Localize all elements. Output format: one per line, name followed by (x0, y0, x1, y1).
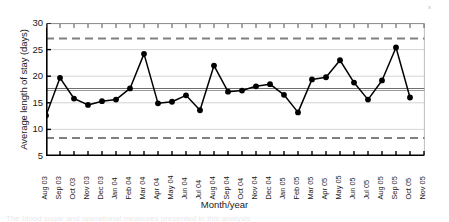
x-tick-label: Mar 05 (308, 160, 316, 200)
y-tick-10: 10 (23, 124, 43, 134)
y-tick-20: 20 (23, 71, 43, 81)
x-tick-label: Nov 05 (420, 160, 428, 200)
x-tick-label: Mar 04 (140, 160, 148, 200)
x-tick-label: Dec 03 (98, 160, 106, 200)
x-tick-label: Jul 05 (364, 160, 372, 200)
x-tick-label: Sep 05 (392, 160, 400, 200)
data-point-markers (46, 44, 413, 118)
x-tick-label: Jun 04 (182, 160, 190, 200)
x-tick-label: Oct 03 (70, 160, 78, 200)
axis-lines (46, 23, 425, 156)
x-tick-label: May 05 (336, 160, 344, 200)
x-tick-label: Feb 04 (126, 160, 134, 200)
chart-svg (46, 23, 425, 156)
x-tick-label: Oct 05 (406, 160, 414, 200)
x-tick-label: Oct 04 (238, 160, 246, 200)
x-tick-label: Apr 04 (154, 160, 162, 200)
x-axis-tick-labels: Aug 03Sep 03Oct 03Nov 03Dec 03Jan 04Feb … (46, 158, 425, 200)
y-tick-30: 30 (23, 18, 43, 28)
x-tick-label: Aug 03 (42, 160, 50, 200)
x-tick-label: Jan 05 (280, 160, 288, 200)
x-tick-label: Feb 05 (294, 160, 302, 200)
y-tick-5: 5 (23, 151, 43, 161)
x-tick-label: May 04 (168, 160, 176, 200)
x-tick-label: Apr 05 (322, 160, 330, 200)
x-axis-label: Month/year (0, 199, 449, 210)
x-tick-label: Nov 04 (252, 160, 260, 200)
gridlines (46, 23, 425, 156)
chart-figure: Average length of stay (days) 30 25 20 1… (0, 0, 449, 222)
figure-caption-fragment: The blood sugar and operational measures… (6, 214, 449, 222)
x-tick-label: Sep 03 (56, 160, 64, 200)
reference-lines (46, 38, 425, 137)
corner-mark-x: x (428, 4, 431, 10)
y-tick-25: 25 (23, 45, 43, 55)
x-tick-label: Aug 05 (378, 160, 386, 200)
x-tick-label: Dec 04 (266, 160, 274, 200)
x-tick-label: Jul 04 (196, 160, 204, 200)
y-tick-15: 15 (23, 98, 43, 108)
plot-area (46, 23, 425, 156)
x-tick-label: Sep 04 (224, 160, 232, 200)
x-tick-label: Nov 03 (84, 160, 92, 200)
top-tick-marks (46, 24, 424, 28)
x-tick-label: Aug 04 (210, 160, 218, 200)
x-tick-label: Jan 04 (112, 160, 120, 200)
x-tick-label: Jun 05 (350, 160, 358, 200)
